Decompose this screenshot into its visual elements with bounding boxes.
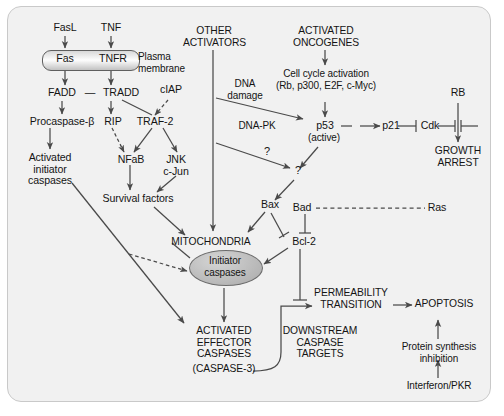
node-ciap: cIAP xyxy=(152,84,190,96)
node-downstream-caspase-targets: DOWNSTREAM CASPASE TARGETS xyxy=(272,325,368,360)
node-cell-cycle-activation: Cell cycle activation (Rb, p300, E2F, c-… xyxy=(263,68,389,91)
node-initiator-caspases: Initiator caspases xyxy=(192,255,258,278)
node-other-activators: OTHER ACTIVATORS xyxy=(183,25,245,48)
node-activated-oncogenes: ACTIVATED ONCOGENES xyxy=(290,25,362,48)
node-apoptosis: APOPTOSIS xyxy=(408,298,480,310)
node-rb: RB xyxy=(444,87,472,99)
node-rip: RIP xyxy=(100,116,126,128)
node-ras: Ras xyxy=(422,202,452,214)
node-bcl2: Bcl-2 xyxy=(285,236,323,248)
node-permeability-transition: PERMEABILITY TRANSITION xyxy=(305,287,397,310)
question-mark-2: ? xyxy=(292,165,304,177)
node-tnf: TNF xyxy=(93,22,129,34)
node-tradd: TRADD xyxy=(93,87,149,99)
node-bad: Bad xyxy=(287,202,317,214)
figure-canvas: FasL TNF Fas TNFR Plasma membrane FADD —… xyxy=(0,0,504,416)
node-mitochondria: MITOCHONDRIA xyxy=(163,236,259,248)
node-p21: p21 xyxy=(378,120,404,132)
node-caspase3: (CASPASE-3) xyxy=(179,363,269,375)
node-fadd: FADD xyxy=(38,87,86,99)
node-activated-effector-caspases: ACTIVATED EFFECTOR CASPASES xyxy=(183,325,265,360)
node-bax: Bax xyxy=(255,199,285,211)
node-jnk: JNK xyxy=(158,154,194,166)
node-traf2: TRAF-2 xyxy=(130,116,180,128)
node-dna-damage: DNA damage xyxy=(224,78,266,101)
question-mark-1: ? xyxy=(261,146,273,158)
node-fasl: FasL xyxy=(45,22,85,34)
node-cdk: Cdk xyxy=(416,120,444,132)
node-p53: p53 xyxy=(310,120,340,132)
node-tnfr: TNFR xyxy=(92,53,134,65)
node-protein-synthesis-inhibition: Protein synthesis inhibition xyxy=(388,341,490,364)
label-plasma-membrane: Plasma membrane xyxy=(138,51,196,74)
node-interferon-pkr: Interferon/PKR xyxy=(392,380,486,392)
node-p53-state: (active) xyxy=(302,132,346,144)
node-dna-pk: DNA-PK xyxy=(232,120,282,132)
node-nfab: NFaB xyxy=(110,154,152,166)
node-growth-arrest: GROWTH ARREST xyxy=(425,145,491,168)
node-fas: Fas xyxy=(48,53,82,65)
node-survival-factors: Survival factors xyxy=(92,193,184,205)
node-cjun: c-Jun xyxy=(156,166,196,178)
node-procaspase: Procaspase-β xyxy=(18,116,106,128)
node-activated-initiator-caspases: Activated initiator caspases xyxy=(17,152,83,187)
